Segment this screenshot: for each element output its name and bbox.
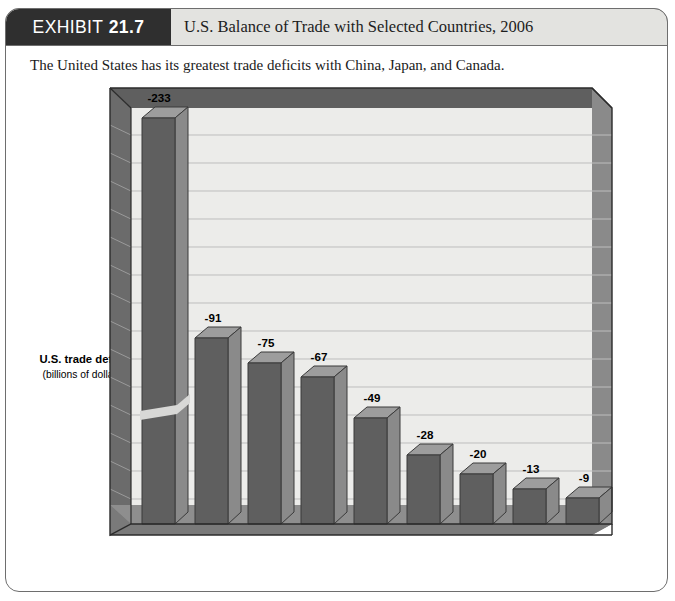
bar-germany	[354, 407, 400, 524]
bar-japan	[195, 327, 241, 524]
bar-italy	[460, 463, 506, 524]
bar-chart: U.S. trade deficit (billions of dollars)	[0, 80, 675, 580]
exhibit-tab-label: EXHIBIT 21.7	[33, 17, 145, 38]
chart-canvas	[0, 80, 675, 580]
value-label-mexico: -67	[296, 350, 342, 363]
exhibit-word: EXHIBIT	[33, 17, 104, 37]
bar-venezuela	[407, 444, 453, 524]
bar-mexico	[301, 366, 347, 524]
value-label-japan: -91	[190, 311, 236, 324]
value-label-canada: -75	[243, 336, 289, 349]
plot-ceiling	[110, 88, 612, 108]
exhibit-header: EXHIBIT 21.7 U.S. Balance of Trade with …	[5, 8, 668, 46]
exhibit-title: U.S. Balance of Trade with Selected Coun…	[184, 9, 533, 45]
value-label-france: -13	[508, 462, 554, 475]
value-label-venezuela: -28	[402, 428, 448, 441]
exhibit-number: 21.7	[109, 17, 145, 37]
bar-china	[140, 107, 190, 524]
bar-france	[513, 478, 559, 524]
bar-canada	[248, 352, 294, 524]
exhibit-caption: The United States has its greatest trade…	[30, 57, 630, 74]
exhibit-page: EXHIBIT 21.7 U.S. Balance of Trade with …	[0, 0, 675, 601]
plot-right-wall	[592, 88, 612, 535]
value-label-italy: -20	[455, 447, 501, 460]
value-label-united-kingdom: -9	[561, 471, 607, 484]
value-label-germany: -49	[349, 391, 395, 404]
bar-united-kingdom	[566, 487, 612, 524]
value-label-china: -233	[136, 91, 182, 104]
exhibit-tab: EXHIBIT 21.7	[6, 9, 171, 45]
header-divider	[5, 45, 668, 46]
